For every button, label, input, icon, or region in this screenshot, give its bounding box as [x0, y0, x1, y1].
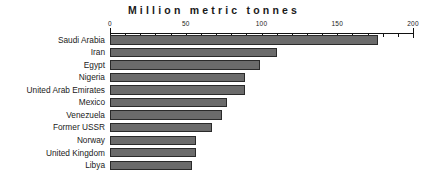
category-label: Nigeria: [79, 73, 105, 81]
category-label: Libya: [85, 161, 105, 169]
bar: [110, 73, 245, 82]
x-axis-tick-label: 100: [256, 20, 267, 27]
bar: [110, 98, 227, 107]
category-label: Venezuela: [66, 111, 105, 119]
x-axis-major-tick: [413, 34, 414, 38]
category-label: United Kingdom: [46, 149, 105, 157]
category-label: Former USSR: [53, 123, 105, 131]
category-label: Saudi Arabia: [58, 36, 105, 44]
bar: [110, 123, 212, 132]
category-label: Norway: [77, 136, 105, 144]
x-axis-tick-label: 150: [332, 20, 343, 27]
x-axis-tick-label: 0: [108, 20, 112, 27]
bar: [110, 35, 378, 44]
bar: [110, 60, 260, 69]
category-axis-labels: Saudi ArabiaIranEgyptNigeriaUnited Arab …: [0, 34, 107, 172]
bar: [110, 85, 245, 94]
bar-chart: Million metric tonnes 050100150200 Saudi…: [0, 0, 428, 176]
chart-title: Million metric tonnes: [0, 4, 428, 16]
x-axis-tick-label: 50: [182, 20, 190, 27]
category-label: Mexico: [79, 98, 105, 106]
bar: [110, 148, 196, 157]
bar: [110, 161, 192, 170]
category-label: Iran: [91, 48, 105, 56]
bar: [110, 136, 196, 145]
bars-container: [110, 34, 413, 172]
bar: [110, 110, 222, 119]
category-label: United Arab Emirates: [27, 86, 105, 94]
x-axis-tick-label: 200: [407, 20, 418, 27]
bar: [110, 48, 277, 57]
category-label: Egypt: [84, 61, 105, 69]
